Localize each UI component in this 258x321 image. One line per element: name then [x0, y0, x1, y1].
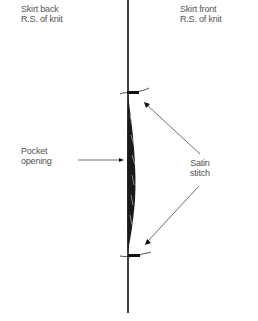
top-bar-tack	[120, 88, 149, 94]
seam-diagram	[0, 0, 258, 321]
satin-lower-arrowhead-icon	[145, 239, 151, 245]
pocket-arrowhead-icon	[119, 158, 124, 162]
pocket-opening-shape	[127, 96, 135, 252]
satin-leader-lower	[148, 186, 199, 241]
satin-leader-upper	[147, 105, 200, 154]
bottom-bar-tack	[120, 252, 151, 257]
